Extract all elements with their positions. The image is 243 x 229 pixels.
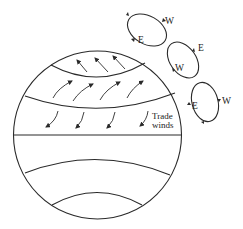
cell-2-label-e: E bbox=[198, 44, 204, 54]
cell-1-arrow-icon bbox=[126, 12, 129, 16]
wind-arrow-icon bbox=[95, 58, 108, 72]
cell-3-label-e: E bbox=[192, 102, 198, 112]
wind-arrow-icon bbox=[107, 112, 115, 128]
trade-winds-line2: winds bbox=[152, 121, 174, 130]
cell-3-label-w: W bbox=[222, 97, 231, 107]
globe bbox=[14, 51, 182, 219]
cell-1-label-w: W bbox=[165, 17, 174, 27]
cell-1-arrow-icon bbox=[131, 38, 135, 42]
polar-wind-arrows bbox=[77, 56, 125, 72]
westerlies-arrows bbox=[53, 81, 143, 101]
wind-arrow-icon bbox=[46, 111, 58, 127]
cell-3-arrow-icon bbox=[201, 121, 204, 124]
cell-1-ellipse bbox=[122, 7, 172, 52]
band-boundary-polar bbox=[51, 63, 145, 77]
band-boundary-south-2 bbox=[52, 193, 142, 206]
trade-winds-label: Trade winds bbox=[152, 112, 174, 130]
wind-arrow-icon bbox=[73, 84, 93, 101]
band-boundary-subtropical bbox=[25, 93, 175, 108]
band-boundary-south-1 bbox=[25, 159, 170, 175]
cell-1-label-e: E bbox=[138, 36, 144, 46]
wind-arrow-icon bbox=[76, 112, 84, 128]
wind-arrow-icon bbox=[77, 60, 87, 72]
cell-2-label-w: W bbox=[175, 64, 184, 74]
trade-wind-arrows bbox=[46, 111, 148, 128]
wind-arrow-icon bbox=[140, 111, 148, 126]
wind-arrow-icon bbox=[53, 81, 72, 98]
wind-arrow-icon bbox=[113, 56, 125, 69]
wind-arrow-icon bbox=[127, 81, 143, 98]
circulation-diagram bbox=[0, 0, 243, 229]
cell-3-arrow-icon bbox=[187, 102, 191, 105]
wind-arrow-icon bbox=[100, 82, 120, 100]
